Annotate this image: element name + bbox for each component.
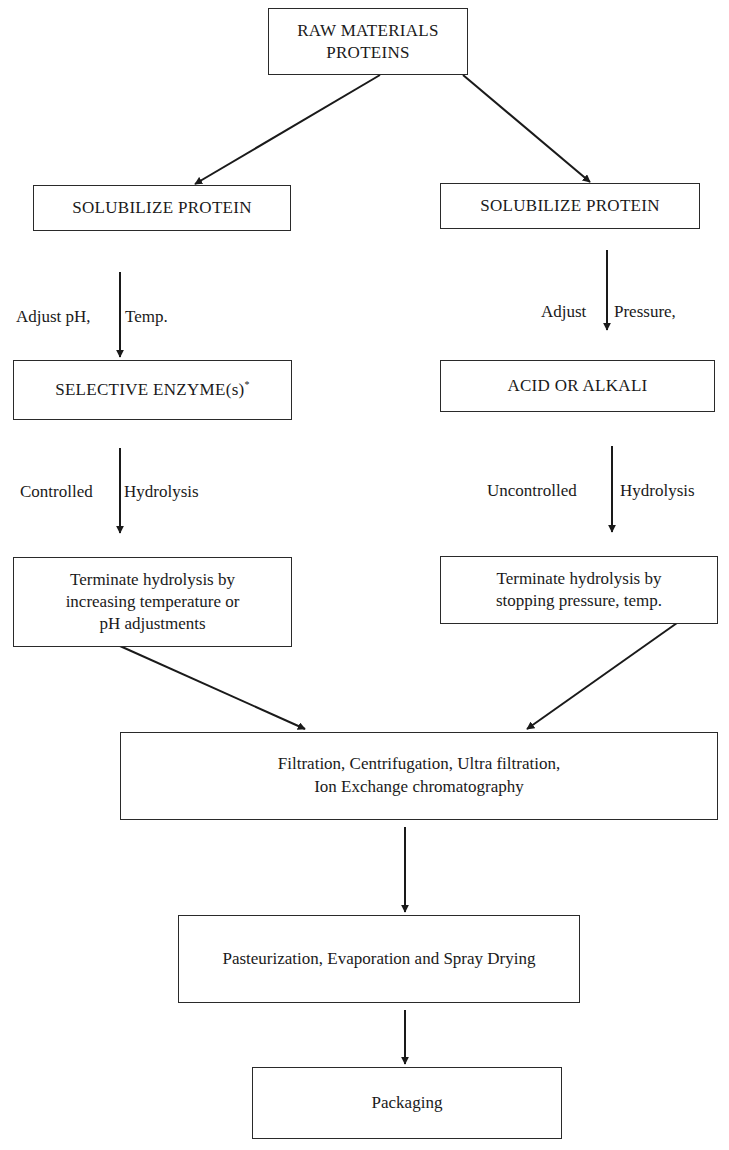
node-packaging: Packaging — [252, 1067, 562, 1139]
node-raw-materials-line2: PROTEINS — [326, 42, 410, 63]
node-right-solubilize: SOLUBILIZE PROTEIN — [440, 183, 700, 229]
node-selective-enzyme-text: SELECTIVE ENZYME(s) — [55, 380, 244, 399]
node-left-terminate-line3: pH adjustments — [99, 613, 205, 635]
node-raw-materials: RAW MATERIALS PROTEINS — [268, 8, 468, 75]
edge-label-left-hydrolysis-before: Controlled — [20, 482, 93, 502]
edge-label-right-adjust-before: Adjust — [541, 302, 586, 322]
node-filtration: Filtration, Centrifugation, Ultra filtra… — [120, 732, 718, 820]
node-left-terminate-line1: Terminate hydrolysis by — [70, 569, 235, 591]
node-pasteurization-label: Pasteurization, Evaporation and Spray Dr… — [222, 948, 535, 969]
edge-label-right-adjust-after: Pressure, — [614, 302, 676, 322]
node-pasteurization: Pasteurization, Evaporation and Spray Dr… — [178, 915, 580, 1003]
node-filtration-line2: Ion Exchange chromatography — [314, 776, 524, 799]
edge-label-right-hydrolysis-after: Hydrolysis — [620, 481, 695, 501]
node-left-solubilize: SOLUBILIZE PROTEIN — [33, 185, 291, 231]
node-right-solubilize-label: SOLUBILIZE PROTEIN — [480, 195, 660, 216]
node-right-terminate-line1: Terminate hydrolysis by — [496, 568, 661, 590]
node-right-terminate-line2: stopping pressure, temp. — [496, 590, 662, 612]
arrow-left-terminate-to-filtration — [120, 646, 305, 729]
footnote-marker: * — [245, 380, 250, 391]
node-packaging-label: Packaging — [372, 1092, 443, 1113]
node-selective-enzyme-label: SELECTIVE ENZYME(s)* — [55, 379, 250, 400]
arrow-right-terminate-to-filtration — [527, 623, 677, 729]
edge-label-left-adjust-after: Temp. — [125, 307, 168, 327]
node-selective-enzyme: SELECTIVE ENZYME(s)* — [13, 360, 292, 420]
node-acid-alkali-label: ACID OR ALKALI — [507, 375, 647, 396]
edge-label-left-hydrolysis-after: Hydrolysis — [124, 482, 199, 502]
arrow-raw-to-left-solubilize — [195, 75, 380, 184]
node-right-terminate: Terminate hydrolysis by stopping pressur… — [440, 556, 718, 624]
node-left-terminate-line2: increasing temperature or — [66, 591, 240, 613]
node-raw-materials-line1: RAW MATERIALS — [297, 20, 439, 41]
edge-label-left-adjust-before: Adjust pH, — [16, 307, 91, 327]
node-left-solubilize-label: SOLUBILIZE PROTEIN — [72, 197, 252, 218]
edge-label-right-hydrolysis-before: Uncontrolled — [487, 481, 577, 501]
node-acid-alkali: ACID OR ALKALI — [440, 360, 715, 412]
node-left-terminate: Terminate hydrolysis by increasing tempe… — [13, 557, 292, 647]
node-filtration-line1: Filtration, Centrifugation, Ultra filtra… — [278, 753, 560, 776]
arrow-raw-to-right-solubilize — [463, 75, 590, 182]
